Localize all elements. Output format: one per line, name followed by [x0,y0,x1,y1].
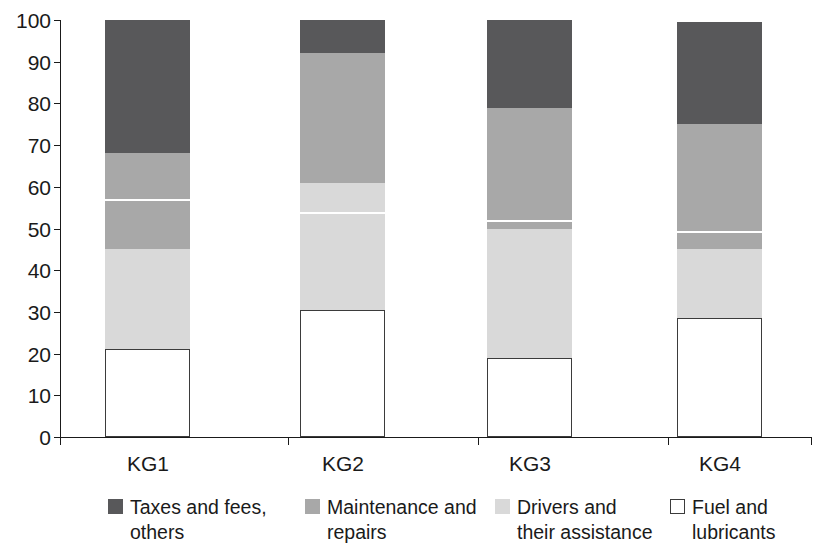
x-axis-label-kg3: KG3 [509,452,551,476]
x-tick-mark [288,437,289,445]
segment-hairline [300,212,385,214]
x-axis-label-kg1: KG1 [127,452,169,476]
x-tick-mark [60,437,61,445]
y-tick-label: 50 [28,218,51,239]
bar-kg2[interactable] [300,20,385,437]
bar-segment-maintenance-and-repairs[interactable] [677,124,762,249]
y-tick-label: 70 [28,135,51,156]
bar-segment-taxes-and-fees-others[interactable] [487,20,572,108]
chart-legend: Taxes and fees, others Maintenance and r… [108,495,808,545]
segment-hairline [487,220,572,222]
y-tick-label: 10 [28,385,51,406]
legend-item-fuel-and-lubricants[interactable]: Fuel and lubricants [670,495,800,545]
y-tick-label: 80 [28,93,51,114]
bar-segment-maintenance-and-repairs[interactable] [487,108,572,229]
y-tick-label: 90 [28,51,51,72]
legend-label: Maintenance and repairs [327,495,477,545]
legend-item-taxes-and-fees-others[interactable]: Taxes and fees, others [108,495,305,545]
bar-kg1[interactable] [105,20,190,437]
x-tick-mark [811,437,812,445]
y-tick-mark [54,145,61,146]
y-tick-mark [54,229,61,230]
bar-segment-taxes-and-fees-others[interactable] [300,20,385,53]
y-tick-label: 20 [28,343,51,364]
y-tick-mark [54,270,61,271]
y-tick-label: 30 [28,301,51,322]
legend-item-drivers-and-their-assistance[interactable]: Drivers and their assistance [495,495,670,545]
light-gray-swatch-icon [495,499,510,514]
bar-kg4[interactable] [677,20,762,437]
bar-segment-maintenance-and-repairs[interactable] [105,153,190,249]
bar-segment-drivers-and-their-assistance[interactable] [105,249,190,349]
bar-segment-taxes-and-fees-others[interactable] [105,20,190,153]
bar-kg3[interactable] [487,20,572,437]
segment-hairline [105,199,190,201]
y-tick-mark [54,312,61,313]
y-tick-mark [54,354,61,355]
y-tick-mark [54,62,61,63]
y-tick-label: 60 [28,176,51,197]
white-outlined-swatch-icon [670,499,685,514]
bar-segment-fuel-and-lubricants[interactable] [487,358,572,437]
bar-segment-taxes-and-fees-others[interactable] [677,22,762,124]
y-tick-mark [54,187,61,188]
bar-segment-fuel-and-lubricants[interactable] [105,349,190,437]
y-tick-mark [54,20,61,21]
legend-label: Taxes and fees, others [130,495,267,545]
plot-area: 100 90 80 70 60 50 40 30 [60,20,812,437]
bar-segment-drivers-and-their-assistance[interactable] [487,229,572,358]
y-tick-label: 40 [28,260,51,281]
mid-gray-swatch-icon [305,499,320,514]
stacked-bar-chart: 100 90 80 70 60 50 40 30 [0,0,814,545]
bar-segment-drivers-and-their-assistance[interactable] [300,183,385,310]
y-tick-label: 0 [39,427,51,448]
bar-segment-fuel-and-lubricants[interactable] [677,318,762,437]
legend-label: Fuel and lubricants [692,495,775,545]
y-tick-mark [54,395,61,396]
x-axis-label-kg4: KG4 [699,452,741,476]
y-tick-label: 100 [16,10,51,31]
dark-gray-swatch-icon [108,499,123,514]
x-axis-line [60,437,812,438]
bar-segment-fuel-and-lubricants[interactable] [300,310,385,437]
legend-item-maintenance-and-repairs[interactable]: Maintenance and repairs [305,495,495,545]
legend-label: Drivers and their assistance [517,495,652,545]
y-tick-mark [54,103,61,104]
bar-segment-maintenance-and-repairs[interactable] [300,53,385,182]
x-tick-mark [478,437,479,445]
x-axis-label-kg2: KG2 [322,452,364,476]
segment-hairline [677,231,762,233]
x-tick-mark [668,437,669,445]
bar-segment-drivers-and-their-assistance[interactable] [677,249,762,318]
